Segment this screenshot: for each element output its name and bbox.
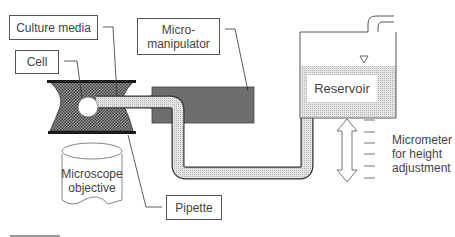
label-micromanipulator: Micro- manipulator [137, 18, 220, 55]
top-coverslip [47, 80, 136, 83]
label-culture-media: Culture media [9, 15, 98, 40]
bottom-coverslip [48, 131, 136, 134]
cell-circle [78, 97, 98, 117]
label-micrometer: Micrometer for height adjustment [392, 133, 452, 175]
fluid-level-marker-icon [360, 56, 368, 63]
label-microscope-objective: Microscope objective [62, 165, 122, 197]
label-pipette: Pipette [166, 195, 222, 220]
double-arrow-icon [337, 119, 357, 182]
label-reservoir: Reservoir [307, 75, 377, 102]
leader-pipette [128, 135, 162, 207]
leader-micromanipulator [225, 29, 248, 91]
micrometer-ticks [364, 120, 375, 178]
reservoir [300, 16, 396, 118]
label-cell: Cell [15, 50, 59, 74]
vent-pipe [368, 16, 394, 32]
